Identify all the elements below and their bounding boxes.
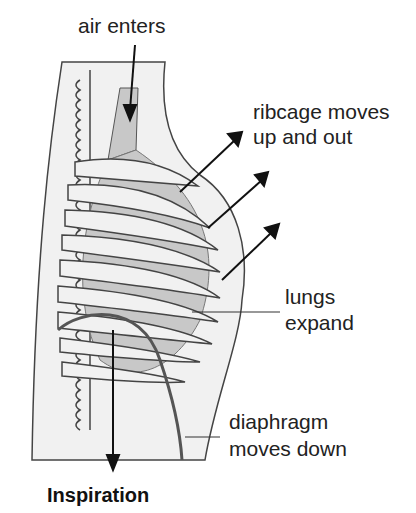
label-ribcage-line1: ribcage moves	[253, 100, 390, 124]
torso-illustration	[0, 0, 416, 513]
label-diaphragm-line2: moves down	[229, 437, 347, 461]
label-lungs-line2: expand	[285, 311, 354, 335]
diagram-title: Inspiration	[47, 484, 149, 507]
label-ribcage-line2: up and out	[253, 125, 352, 149]
label-diaphragm-line1: diaphragm	[229, 410, 328, 434]
label-air-enters: air enters	[78, 14, 166, 38]
inspiration-diagram: air enters ribcage moves up and out lung…	[0, 0, 416, 513]
label-lungs-line1: lungs	[285, 285, 335, 309]
